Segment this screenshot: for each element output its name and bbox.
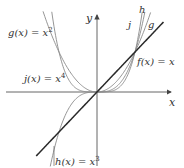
curve-f-identity — [36, 22, 163, 156]
curve-h-x-cubed — [50, 12, 145, 166]
label-j: j(x) = x4 — [22, 72, 66, 84]
x-axis-label: x — [169, 96, 176, 109]
label-h: h(x) = x3 — [55, 155, 100, 167]
label-j-short: j — [126, 19, 131, 30]
label-g-short: g — [148, 19, 154, 30]
y-axis-label: y — [85, 12, 93, 25]
label-f: f(x) = x — [136, 56, 175, 67]
label-g: g(x) = x2 — [8, 26, 53, 38]
label-h-short: h — [139, 4, 145, 15]
power-functions-diagram: y x g(x) = x2 j(x) = x4 h(x) = x3 f(x) =… — [0, 0, 184, 168]
